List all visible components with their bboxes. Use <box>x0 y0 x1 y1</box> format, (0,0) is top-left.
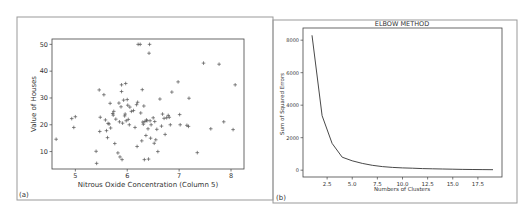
x-tick-label: 2.5 <box>323 181 332 187</box>
elbow-line-chart: ELBOW METHOD 2.55.07.510.012.515.017.5 0… <box>276 20 502 202</box>
x-tick-label: 5.0 <box>348 181 357 187</box>
x-tick-label: 8 <box>229 172 233 180</box>
panel-label-b: (b) <box>276 194 286 202</box>
y-tick-label: 20 <box>40 121 48 129</box>
x-tick-label: 6 <box>125 172 129 180</box>
y-tick-label: 8000 <box>286 37 299 43</box>
y-tick-label: 50 <box>40 41 48 49</box>
y-tick-label: 30 <box>40 94 48 102</box>
x-tick-label: 17.5 <box>472 181 485 187</box>
x-axis-label: Nitrous Oxide Concentration (Column 5) <box>78 181 219 189</box>
chart-title: ELBOW METHOD <box>375 20 429 28</box>
plot-area-a <box>52 39 244 169</box>
y-axis-label: Sum of Squared Errors <box>279 73 286 135</box>
y-tick-label: 2000 <box>286 135 299 141</box>
x-axis-label: Numbers of Clusters <box>374 186 430 192</box>
x-tick-label: 5 <box>73 172 77 180</box>
y-axis-ticks: 1020304050 <box>40 41 52 156</box>
x-tick-label: 15.0 <box>447 181 460 187</box>
scatter-chart: 5678 1020304050 Nitrous Oxide Concentrat… <box>19 39 244 199</box>
y-axis-ticks: 02000400060008000 <box>286 37 303 173</box>
y-tick-label: 40 <box>40 67 48 75</box>
panel-label-a: (a) <box>19 191 29 199</box>
y-axis-label: Value of Houses <box>30 76 38 132</box>
x-tick-label: 7 <box>177 172 181 180</box>
plot-area-b <box>303 28 502 177</box>
x-axis-ticks: 5678 <box>73 169 233 180</box>
figure: 5678 1020304050 Nitrous Oxide Concentrat… <box>0 0 532 214</box>
y-tick-label: 4000 <box>286 102 299 108</box>
y-tick-label: 0 <box>296 167 299 173</box>
y-tick-label: 10 <box>40 148 48 156</box>
y-tick-label: 6000 <box>286 70 299 76</box>
